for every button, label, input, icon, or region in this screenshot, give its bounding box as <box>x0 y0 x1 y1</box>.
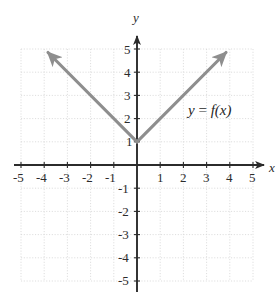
x-tick-label-3: 3 <box>203 171 210 184</box>
function-label-operator: = <box>195 102 211 118</box>
y-tick-label-1: 1 <box>126 135 133 148</box>
graph-figure <box>0 0 279 303</box>
y-tick-label--3: -3 <box>118 228 129 241</box>
x-tick-label-2: 2 <box>180 171 187 184</box>
y-tick-label--5: -5 <box>118 274 129 287</box>
x-tick-label-5: 5 <box>249 171 256 184</box>
x-tick-label--5: -5 <box>13 171 24 184</box>
x-tick-label-1: 1 <box>157 171 164 184</box>
y-tick-label-2: 2 <box>124 112 131 125</box>
x-tick-label-4: 4 <box>226 171 233 184</box>
function-label-rhs: f(x) <box>211 102 232 118</box>
x-axis-label: x <box>269 161 275 174</box>
y-tick-label-5: 5 <box>124 43 131 56</box>
x-tick-label--1: -1 <box>105 171 116 184</box>
y-tick-label--1: -1 <box>118 182 129 195</box>
x-tick-label--2: -2 <box>82 171 93 184</box>
x-tick-label--3: -3 <box>59 171 70 184</box>
y-tick-label--2: -2 <box>118 205 129 218</box>
function-label-lhs: y <box>188 102 195 118</box>
y-axis-label: y <box>133 11 139 24</box>
y-tick-label-4: 4 <box>124 66 131 79</box>
y-tick-label-3: 3 <box>124 89 131 102</box>
y-tick-label--4: -4 <box>118 251 129 264</box>
x-tick-label--4: -4 <box>36 171 47 184</box>
function-equation-label: y = f(x) <box>188 103 231 118</box>
